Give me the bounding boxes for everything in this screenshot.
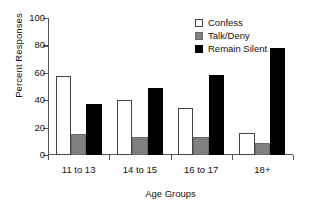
legend-swatch-icon [195,45,203,53]
bar-confess [239,133,254,155]
chart-figure: Percent Responses 020406080100 11 to 131… [0,0,314,209]
x-axis-category-label: 11 to 13 [62,164,96,175]
bar-talkdeny [193,137,208,155]
x-axis-category-label: 16 to 17 [184,164,218,175]
y-axis-tick-label: 40 [34,94,45,105]
x-axis-title: Age Groups [48,188,293,199]
bar-talkdeny [71,134,86,155]
y-axis-tick-label: 20 [34,122,45,133]
y-axis-tick-label: 80 [34,39,45,50]
y-axis-tick-label: 60 [34,67,45,78]
y-axis-tick-label: 0 [40,149,45,160]
legend-item-talkdeny: Talk/Deny [195,30,267,42]
y-axis-title: Percent Responses [13,0,24,126]
legend-swatch-icon [195,32,203,40]
x-axis-tick [293,155,294,160]
x-axis-tick [232,155,233,160]
legend-item-silent: Remain Silent [195,43,267,55]
legend: ConfessTalk/DenyRemain Silent [195,17,267,56]
legend-swatch-icon [195,19,203,27]
bar-silent [86,104,101,155]
x-axis-category-label: 14 to 15 [123,164,157,175]
bar-confess [56,76,71,155]
bar-silent [270,48,285,155]
legend-item-confess: Confess [195,17,267,29]
y-axis-line [48,18,49,155]
bar-silent [209,75,224,155]
x-axis-category-label: 18+ [254,164,270,175]
x-axis-tick [48,155,49,160]
bar-silent [148,88,163,155]
bar-talkdeny [255,143,270,155]
legend-item-label: Confess [208,18,243,28]
bar-confess [178,108,193,155]
bar-talkdeny [132,137,147,155]
legend-item-label: Remain Silent [208,44,267,54]
y-axis-tick-label: 100 [29,12,45,23]
bar-confess [117,100,132,155]
x-axis-tick [109,155,110,160]
legend-item-label: Talk/Deny [208,31,250,41]
x-axis-tick [171,155,172,160]
